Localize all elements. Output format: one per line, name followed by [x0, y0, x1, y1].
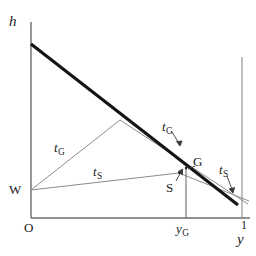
x-axis-max-tick-label: 1: [241, 219, 247, 231]
tS-right-subscript: S: [223, 169, 228, 179]
tG-right-leader-arrow: [177, 141, 182, 146]
origin-label: O: [24, 221, 33, 234]
thin-ray-group: [31, 120, 249, 218]
harberger-triangle-diagram: h y O 1 W G S yG tG tS tG tS: [0, 0, 256, 256]
x-axis-label: y: [237, 232, 244, 247]
tG-label-left: tG: [54, 141, 64, 154]
yG-subscript: G: [182, 228, 189, 238]
y-axis-label: h: [9, 14, 17, 29]
diagram-canvas: [0, 0, 256, 256]
point-marker-G: [185, 167, 187, 169]
main-thick-line: [31, 44, 238, 205]
point-label-S: S: [166, 181, 173, 194]
tG-left-subscript: G: [58, 147, 65, 157]
point-marker-S: [178, 172, 180, 174]
tG-right-subscript: G: [166, 126, 173, 136]
tS-label-left: tS: [93, 165, 102, 178]
tS-left-subscript: S: [97, 171, 102, 181]
tG-ray: [31, 120, 248, 204]
point-label-G: G: [193, 155, 202, 168]
yG-axis-label: yG: [176, 222, 189, 235]
yG-base: y: [176, 221, 182, 236]
tS-label-right: tS: [219, 163, 228, 176]
point-label-W: W: [9, 183, 21, 196]
tG-label-right: tG: [162, 120, 172, 133]
